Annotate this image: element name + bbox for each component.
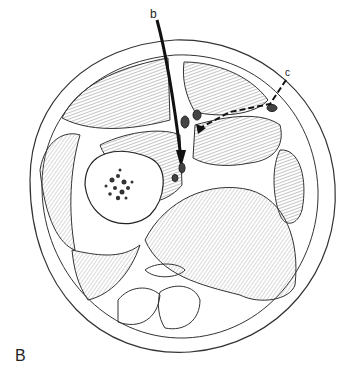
label-c: c [285, 67, 290, 78]
bone [85, 151, 163, 223]
panel-label: B [15, 347, 26, 365]
compartment-bottom-1 [118, 288, 160, 324]
label-b: b [150, 7, 157, 21]
cross-section-figure: b c B [0, 0, 346, 373]
muscle-lateral [193, 116, 281, 165]
cross-section-drawing [0, 0, 346, 373]
muscle-anterior-right [183, 62, 268, 115]
compartment-bottom-2 [158, 286, 200, 329]
muscle-left [40, 134, 80, 250]
muscle-anterior-left [62, 58, 170, 128]
muscle-posterior-large [145, 187, 296, 300]
muscle-posterior-left [72, 245, 140, 300]
